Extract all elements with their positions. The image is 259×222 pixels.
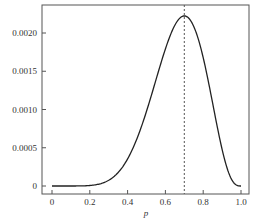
x-tick-label: 1.0 [235,197,247,207]
x-axis-label: p [143,208,149,218]
x-tick-label: 0.6 [160,197,172,207]
y-tick-label: 0 [33,181,38,191]
y-tick-label: 0.0005 [12,143,37,153]
likelihood-curve [52,16,241,186]
likelihood-chart: 00.00050.00100.00150.0020 00.20.40.60.81… [0,0,259,222]
y-tick-label: 0.0010 [12,105,37,115]
y-tick-label: 0.0015 [12,66,37,76]
x-tick-label: 0.2 [84,197,95,207]
x-axis: 00.20.40.60.81.0 [50,190,247,207]
plot-frame [42,5,249,194]
y-axis: 00.00050.00100.00150.0020 [12,28,46,191]
x-tick-label: 0 [50,197,55,207]
x-tick-label: 0.4 [122,197,134,207]
x-tick-label: 0.8 [198,197,210,207]
y-tick-label: 0.0020 [12,28,37,38]
